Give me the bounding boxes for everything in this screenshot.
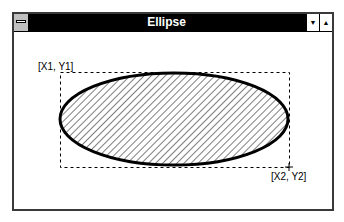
ellipse-shape[interactable] [60,73,288,165]
corner2-marker-icon [285,163,293,171]
corner1-label: [X1, Y1] [38,61,73,72]
drawing-canvas [0,0,344,222]
corner2-label: [X2, Y2] [271,171,306,182]
